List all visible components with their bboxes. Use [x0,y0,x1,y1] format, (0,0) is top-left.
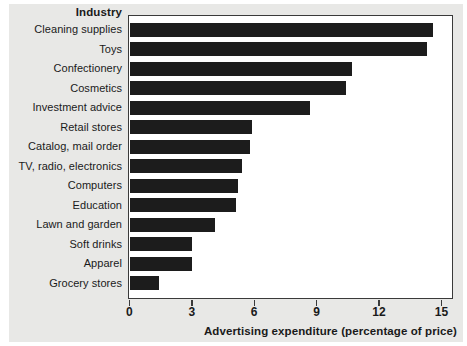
bar [130,140,251,154]
category-label: Lawn and garden [9,218,122,230]
x-tick-label: 3 [188,305,195,319]
category-label: Catalog, mail order [9,140,122,152]
bar [130,237,192,251]
bar [130,257,192,271]
x-axis-title: Advertising expenditure (percentage of p… [9,325,457,337]
bar [130,198,236,212]
category-label: Education [9,199,122,211]
category-label: Soft drinks [9,238,122,250]
category-label: Confectionery [9,62,122,74]
x-tick-label: 12 [372,305,386,319]
category-label: Cosmetics [9,82,122,94]
category-label: Grocery stores [9,277,122,289]
bar [130,81,346,95]
x-tick-label: 15 [435,305,449,319]
bar [130,179,238,193]
bar [130,276,159,290]
category-label: Cleaning supplies [9,23,122,35]
bar [130,218,215,232]
bar [130,120,253,134]
category-axis-title: Industry [9,6,122,18]
category-label: TV, radio, electronics [9,160,122,172]
category-label: Retail stores [9,121,122,133]
category-label: Apparel [9,257,122,269]
category-label: Toys [9,43,122,55]
chart-figure: Industry Cleaning suppliesToysConfection… [0,0,467,346]
bar [130,23,434,37]
category-label: Investment advice [9,101,122,113]
x-tick-label: 6 [251,305,258,319]
bar [130,42,427,56]
category-label: Computers [9,179,122,191]
x-tick-label: 9 [313,305,320,319]
bar [130,101,311,115]
bar [130,159,242,173]
x-tick-label: 0 [126,305,133,319]
chart-figure-inner: Industry Cleaning suppliesToysConfection… [9,4,463,342]
bar [130,62,353,76]
